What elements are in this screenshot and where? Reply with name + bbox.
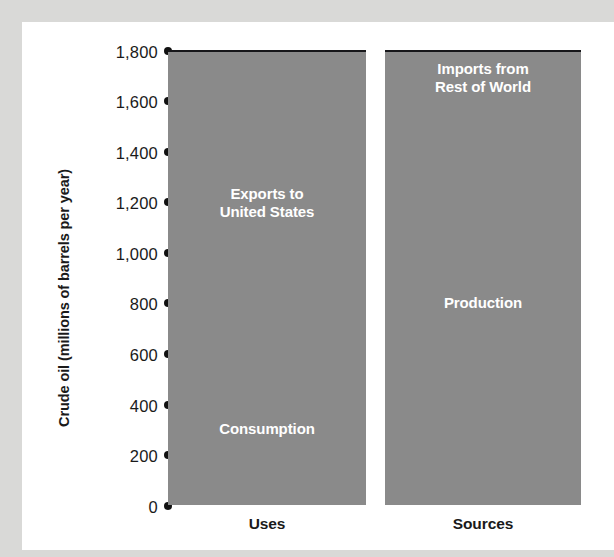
bar-segment: Imports from Rest of World	[385, 50, 581, 101]
y-axis-tick: 1,800	[116, 40, 172, 60]
category-label-uses: Uses	[168, 515, 366, 533]
y-axis-tick-label: 800	[130, 294, 158, 314]
y-axis-tick-label: 1,200	[116, 193, 158, 213]
y-axis-tick-label: 1,600	[116, 92, 158, 112]
y-axis-tick-label: 600	[130, 345, 158, 365]
y-axis-tick-label: 1,800	[116, 42, 158, 62]
bar-segment-label: Exports to United States	[216, 185, 319, 220]
y-axis-tick-list: 1,8001,6001,4001,2001,0008006004002000	[22, 22, 182, 550]
y-axis-tick: 1,600	[116, 91, 172, 111]
y-axis-tick-label: 200	[130, 446, 158, 466]
y-axis-tick-label: 1,400	[116, 143, 158, 163]
y-axis-tick: 1,200	[116, 192, 172, 212]
bar-segment: Production	[385, 101, 581, 505]
bar-segment-label: Consumption	[215, 420, 319, 438]
y-axis-tick: 1,000	[116, 242, 172, 262]
category-label-sources: Sources	[385, 515, 581, 533]
y-axis-tick-label: 400	[130, 396, 158, 416]
bar-uses: ConsumptionExports to United States	[168, 50, 366, 505]
chart-plate: Crude oil (millions of barrels per year)…	[22, 22, 614, 550]
bar-segment-label: Imports from Rest of World	[431, 60, 535, 95]
y-axis-tick-label: 1,000	[116, 244, 158, 264]
bar-segment: Exports to United States	[168, 50, 366, 353]
y-axis-tick: 1,400	[116, 141, 172, 161]
y-axis-tick-label: 0	[149, 497, 158, 517]
bar-segment: Consumption	[168, 353, 366, 505]
figure-page: Crude oil (millions of barrels per year)…	[0, 0, 614, 557]
bar-segment-label: Production	[440, 294, 526, 312]
bar-sources: ProductionImports from Rest of World	[385, 50, 581, 505]
y-axis-tick: 800	[130, 293, 172, 313]
y-axis-tick: 400	[130, 394, 172, 414]
y-axis-tick: 200	[130, 444, 172, 464]
y-axis-tick: 600	[130, 343, 172, 363]
